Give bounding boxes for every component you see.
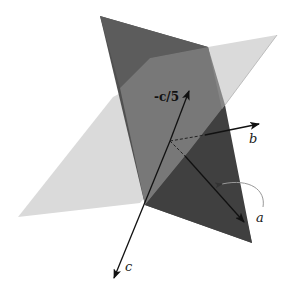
- label-neg-c-over-5: -c/5: [154, 90, 179, 104]
- diagram-canvas: -c/5 b a c: [0, 0, 291, 290]
- label-b: b: [249, 131, 257, 146]
- label-a: a: [256, 210, 264, 225]
- label-c: c: [125, 259, 133, 274]
